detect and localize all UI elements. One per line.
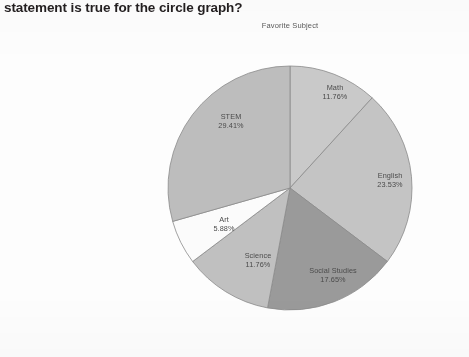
pie-slice-label-stem: STEM29.41%: [218, 112, 244, 130]
pie-chart-figure: Favorite Subject Math11.76%English23.53%…: [0, 0, 469, 357]
pie-chart-svg: Math11.76%English23.53%Social Studies17.…: [0, 0, 469, 357]
pie-slice-label-english: English23.53%: [377, 171, 403, 189]
pie-slice-label-science: Science11.76%: [245, 251, 272, 269]
pie-slices-group: [168, 66, 412, 310]
